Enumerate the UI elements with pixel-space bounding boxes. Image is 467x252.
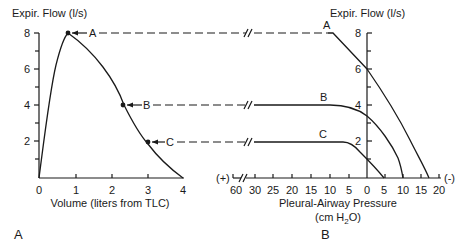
svg-text:2: 2 (355, 135, 361, 147)
svg-text:25: 25 (267, 184, 279, 196)
svg-text:0: 0 (36, 184, 42, 196)
svg-text:5: 5 (346, 184, 352, 196)
svg-text:20: 20 (286, 184, 298, 196)
svg-text:60: 60 (230, 184, 242, 196)
right-x-axis-units: (cm H2O) (315, 211, 361, 226)
svg-text:6: 6 (355, 63, 361, 75)
left-x-axis-label: Volume (liters from TLC) (51, 197, 170, 209)
svg-text:15: 15 (305, 184, 317, 196)
svg-text:6: 6 (24, 63, 30, 75)
panel-a-label: A (14, 227, 23, 242)
svg-text:C: C (166, 136, 174, 148)
svg-text:2: 2 (109, 184, 115, 196)
svg-text:4: 4 (180, 184, 186, 196)
negative-sign-label: (-) (444, 172, 455, 184)
curve-b-label: B (320, 91, 327, 103)
svg-text:15: 15 (415, 184, 427, 196)
left-y-ticks: 8 6 4 2 (24, 27, 39, 159)
svg-text:3: 3 (145, 184, 151, 196)
svg-text:A: A (89, 27, 97, 39)
point-b-marker (121, 103, 126, 108)
connector-lines (99, 29, 328, 146)
point-c-marker (146, 140, 151, 145)
right-y-ticks: 8 6 4 2 (355, 27, 372, 159)
svg-text:5: 5 (381, 184, 387, 196)
right-x-axis-label: Pleural-Airway Pressure (279, 197, 397, 209)
svg-text:8: 8 (24, 27, 30, 39)
point-a-marker (66, 31, 71, 36)
panel-b-label: B (321, 227, 330, 242)
positive-sign-label: (+) (216, 172, 230, 184)
svg-text:10: 10 (324, 184, 336, 196)
arrow-a: A (72, 27, 97, 39)
flow-volume-curve (39, 33, 183, 178)
curve-a-label: A (323, 19, 331, 31)
svg-text:20: 20 (433, 184, 445, 196)
svg-text:10: 10 (397, 184, 409, 196)
svg-text:30: 30 (249, 184, 261, 196)
right-y-axis-label: Expir. Flow (l/s) (330, 7, 405, 19)
curve-c (254, 142, 384, 178)
svg-text:2: 2 (24, 135, 30, 147)
arrow-b: B (127, 99, 150, 111)
left-x-ticks: 0 1 2 3 4 (36, 174, 186, 196)
panel-b-flow-pressure: Expir. Flow (l/s) 8 6 4 2 (216, 7, 455, 242)
left-y-axis-label: Expir. Flow (l/s) (12, 7, 87, 19)
svg-text:B: B (143, 99, 150, 111)
arrow-c: C (152, 136, 174, 148)
flow-pressure-figure: Expir. Flow (l/s) 8 6 4 2 0 1 2 (0, 0, 467, 252)
svg-text:1: 1 (73, 184, 79, 196)
right-x-ticks: 60 30 25 20 15 10 5 0 5 10 15 20 (230, 174, 445, 196)
curve-c-label: C (319, 128, 327, 140)
svg-text:8: 8 (355, 27, 361, 39)
svg-text:4: 4 (24, 99, 30, 111)
panel-a-flow-volume: Expir. Flow (l/s) 8 6 4 2 0 1 2 (12, 7, 186, 242)
svg-text:0: 0 (364, 184, 370, 196)
